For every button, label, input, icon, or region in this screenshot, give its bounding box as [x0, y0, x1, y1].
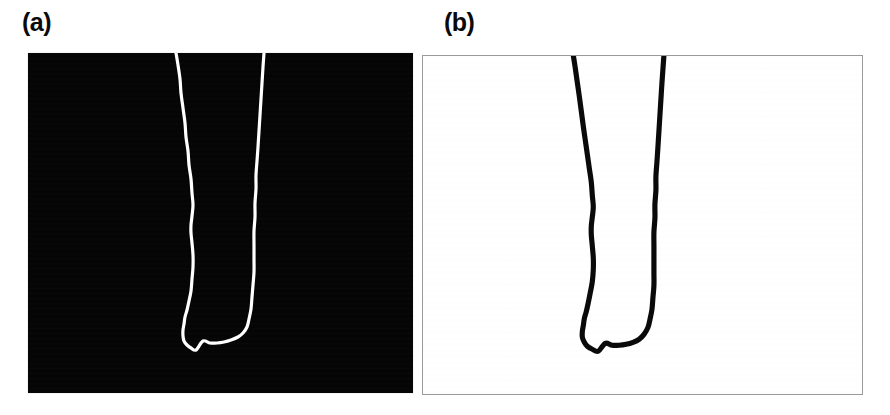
figure-root: (a) (b)	[0, 0, 890, 415]
filament-curve-a	[176, 53, 264, 350]
filament-plot-b	[423, 56, 862, 394]
panel-label-a: (a)	[22, 10, 51, 35]
filament-plot-a	[28, 53, 413, 393]
panel-b	[422, 55, 863, 395]
panel-label-b: (b)	[444, 10, 474, 35]
panel-a	[28, 53, 413, 393]
filament-curve-b	[573, 56, 663, 352]
